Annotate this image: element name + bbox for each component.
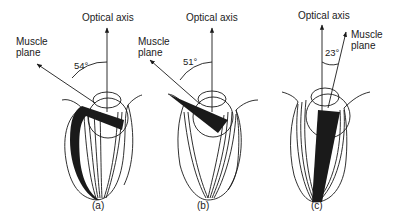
muscle-plane-label-b-line2: plane <box>138 47 162 58</box>
orbit-right-b <box>228 110 241 190</box>
angle-arc-c <box>322 62 338 65</box>
optical-axis-label-c: Optical axis <box>298 10 350 21</box>
muscle-plane-label-c-line2: plane <box>351 40 375 51</box>
orbit-outline-b <box>168 94 258 200</box>
muscle-plane-label-a-line1: Muscle <box>16 36 48 47</box>
panel-b-figure <box>150 28 258 200</box>
cornea-c <box>311 88 339 106</box>
optical-axis-label-a: Optical axis <box>82 12 134 23</box>
muscle-plane-label-c-line1: Muscle <box>351 29 383 40</box>
muscle-plane-label-a-line2: plane <box>16 47 40 58</box>
panel-a-figure <box>37 28 142 200</box>
angle-label-c: 23° <box>325 48 339 58</box>
muscle-plane-label-b-line1: Muscle <box>138 36 170 47</box>
angle-label-a: 54° <box>74 61 88 71</box>
caption-b: (b) <box>197 200 209 211</box>
caption-c: (c) <box>311 200 323 211</box>
caption-a: (a) <box>92 200 104 211</box>
diagram-canvas <box>0 0 395 216</box>
angle-label-b: 51° <box>183 57 197 67</box>
muscle-plane-arrow-c <box>328 32 346 108</box>
optical-axis-label-b: Optical axis <box>186 12 238 23</box>
